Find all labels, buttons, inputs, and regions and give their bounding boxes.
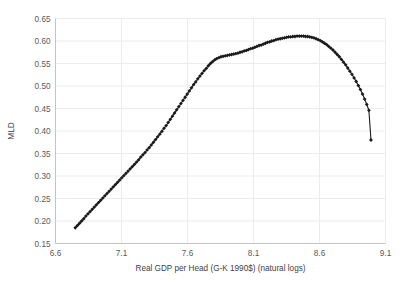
y-tick-label: 0.55: [35, 60, 51, 69]
y-tick-label: 0.25: [35, 195, 51, 204]
y-axis-title: MLD: [7, 122, 16, 139]
x-tick-label: 8.1: [248, 249, 260, 258]
chart-container: 0.150.200.250.300.350.400.450.500.550.60…: [0, 0, 405, 282]
y-tick-label: 0.30: [35, 172, 51, 181]
x-axis-title: Real GDP per Head (G-K 1990$) (natural l…: [135, 264, 305, 273]
x-tick-label: 9.1: [380, 249, 392, 258]
y-tick-label: 0.65: [35, 15, 51, 24]
y-tick-label: 0.40: [35, 127, 51, 136]
y-tick-label: 0.60: [35, 37, 51, 46]
x-tick-label: 7.6: [182, 249, 194, 258]
data-point-marker: [363, 97, 367, 101]
data-point-marker: [365, 103, 369, 107]
scatter-plot: 0.150.200.250.300.350.400.450.500.550.60…: [0, 0, 405, 282]
data-point-marker: [356, 84, 360, 88]
x-tick-label: 7.1: [116, 249, 128, 258]
y-tick-label: 0.35: [35, 150, 51, 159]
data-point-marker: [359, 88, 363, 92]
data-point-marker: [361, 92, 365, 96]
y-tick-label: 0.20: [35, 217, 51, 226]
y-tick-label: 0.45: [35, 105, 51, 114]
x-tick-label: 8.6: [314, 249, 326, 258]
y-axis-tick-labels: 0.150.200.250.300.350.400.450.500.550.60…: [35, 15, 51, 249]
x-tick-label: 6.6: [50, 249, 62, 258]
y-tick-label: 0.15: [35, 240, 51, 249]
y-tick-label: 0.50: [35, 82, 51, 91]
x-axis-tick-labels: 6.67.17.68.18.69.1: [50, 249, 392, 258]
data-point-marker: [369, 138, 373, 142]
